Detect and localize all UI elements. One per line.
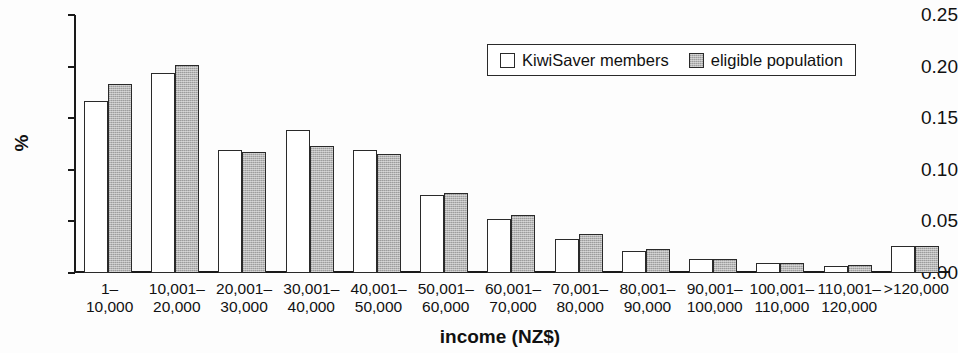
- bar-kiwisaver-members: [756, 263, 780, 273]
- bar-kiwisaver-members: [218, 150, 242, 273]
- bar-group: [210, 15, 277, 273]
- y-tick-mark: [68, 272, 75, 274]
- bar-eligible-population: [646, 249, 670, 273]
- bar-kiwisaver-members: [689, 259, 713, 273]
- bar-kiwisaver-members: [555, 239, 579, 273]
- gray-square-icon: [689, 53, 704, 68]
- bar-eligible-population: [242, 152, 266, 273]
- chart-legend: KiwiSaver memberseligible population: [487, 44, 856, 76]
- bar-eligible-population: [780, 263, 804, 273]
- bar-eligible-population: [713, 259, 737, 273]
- bar-eligible-population: [444, 193, 468, 273]
- x-tick-line: 120,000: [808, 298, 891, 316]
- legend-item: eligible population: [689, 51, 843, 70]
- bar-kiwisaver-members: [286, 130, 310, 273]
- bar-kiwisaver-members: [84, 101, 108, 273]
- bar-kiwisaver-members: [353, 150, 377, 273]
- bar-group: [76, 15, 143, 273]
- bar-kiwisaver-members: [824, 266, 848, 273]
- bar-eligible-population: [579, 234, 603, 273]
- bar-group: [412, 15, 479, 273]
- bar-chart: % 0.250.200.150.100.050.00 1–10,00010,00…: [0, 0, 958, 353]
- y-tick-mark: [68, 14, 75, 16]
- bar-kiwisaver-members: [151, 73, 175, 273]
- y-tick-mark: [68, 117, 75, 119]
- bar-kiwisaver-members: [420, 195, 444, 273]
- x-axis-title-text: income (NZ$): [440, 326, 560, 348]
- bar-eligible-population: [108, 84, 132, 273]
- y-tick-mark: [68, 220, 75, 222]
- legend-item: KiwiSaver members: [500, 51, 669, 70]
- y-tick-mark: [68, 169, 75, 171]
- bar-group: [143, 15, 210, 273]
- bar-eligible-population: [377, 154, 401, 273]
- bar-kiwisaver-members: [622, 251, 646, 273]
- bar-eligible-population: [511, 215, 535, 273]
- bar-group: [345, 15, 412, 273]
- bar-group: [278, 15, 345, 273]
- bar-eligible-population: [915, 246, 939, 273]
- legend-label: KiwiSaver members: [522, 51, 669, 70]
- bar-kiwisaver-members: [487, 219, 511, 273]
- x-tick-line: >120,000: [875, 280, 958, 298]
- bar-eligible-population: [175, 65, 199, 273]
- x-axis-title: income (NZ$): [0, 326, 958, 348]
- y-tick-mark: [68, 66, 75, 68]
- white-square-icon: [500, 53, 515, 68]
- x-tick-label: >120,000: [875, 280, 958, 298]
- bar-kiwisaver-members: [891, 246, 915, 273]
- y-axis-title: %: [11, 113, 33, 173]
- bar-eligible-population: [848, 265, 872, 273]
- bar-eligible-population: [310, 146, 334, 273]
- legend-label: eligible population: [711, 51, 843, 70]
- bar-group: [883, 15, 950, 273]
